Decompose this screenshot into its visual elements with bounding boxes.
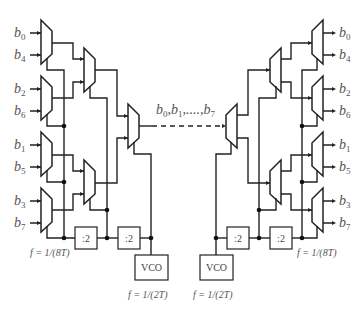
right-vco-label: VCO bbox=[206, 262, 227, 273]
input-label-b2: b2 bbox=[14, 81, 26, 98]
output-label-b5: b5 bbox=[339, 159, 351, 176]
left-select-wires bbox=[47, 58, 151, 255]
demux-stage3-d bbox=[312, 188, 323, 232]
left-freq-low: f = 1/(8T) bbox=[30, 247, 70, 259]
link-label: b0,b1,....,b7 bbox=[156, 102, 216, 119]
right-output-arrows bbox=[323, 31, 336, 225]
demux-stage3-b bbox=[312, 76, 323, 120]
right-divider-2-label: :2 bbox=[277, 233, 285, 244]
output-label-b1: b1 bbox=[339, 137, 351, 154]
left-vco-label: VCO bbox=[141, 262, 162, 273]
demux-stage1 bbox=[226, 104, 237, 148]
right-select-wires bbox=[216, 58, 317, 255]
demux-stage3-c bbox=[312, 132, 323, 176]
input-label-b6: b6 bbox=[14, 103, 26, 120]
input-label-b4: b4 bbox=[14, 47, 26, 64]
serdes-diagram: b0 b4 b2 b6 b1 b5 b3 b7 bbox=[0, 0, 364, 309]
output-label-b2: b2 bbox=[339, 81, 351, 98]
output-label-b7: b7 bbox=[339, 215, 351, 232]
left-divider-1-label: :2 bbox=[82, 233, 90, 244]
input-label-b0: b0 bbox=[14, 25, 26, 42]
mux-stage1-b bbox=[41, 76, 52, 120]
output-label-b0: b0 bbox=[339, 25, 351, 42]
mux-stage1-d bbox=[41, 188, 52, 232]
right-divider-1-label: :2 bbox=[234, 233, 242, 244]
left-freq-vco: f = 1/(2T) bbox=[128, 289, 168, 301]
demux-stage2-b bbox=[270, 160, 281, 204]
right-deserializer: b0 b4 b2 b6 b1 b5 b3 b7 bbox=[193, 20, 351, 301]
right-freq-low: f = 1/(8T) bbox=[297, 247, 337, 259]
serial-link: b0,b1,....,b7 bbox=[139, 102, 226, 128]
output-label-b4: b4 bbox=[339, 47, 351, 64]
mux-stage2-a bbox=[84, 48, 95, 92]
mux-stage1-a bbox=[41, 20, 52, 64]
left-input-arrows bbox=[30, 31, 41, 225]
input-label-b5: b5 bbox=[14, 159, 26, 176]
mux-stage3 bbox=[128, 104, 139, 148]
left-divider-2-label: :2 bbox=[125, 233, 133, 244]
mux-stage2-b bbox=[84, 160, 95, 204]
demux-stage3-a bbox=[312, 20, 323, 64]
input-label-b3: b3 bbox=[14, 193, 26, 210]
mux-stage1-c bbox=[41, 132, 52, 176]
right-freq-vco: f = 1/(2T) bbox=[193, 289, 233, 301]
left-serializer: b0 b4 b2 b6 b1 b5 b3 b7 bbox=[14, 20, 168, 301]
input-label-b7: b7 bbox=[14, 215, 26, 232]
input-label-b1: b1 bbox=[14, 137, 26, 154]
demux-stage2-a bbox=[270, 48, 281, 92]
output-label-b6: b6 bbox=[339, 103, 351, 120]
output-label-b3: b3 bbox=[339, 193, 351, 210]
left-input-labels: b0 b4 b2 b6 b1 b5 b3 b7 bbox=[14, 25, 26, 232]
right-output-labels: b0 b4 b2 b6 b1 b5 b3 b7 bbox=[339, 25, 351, 232]
